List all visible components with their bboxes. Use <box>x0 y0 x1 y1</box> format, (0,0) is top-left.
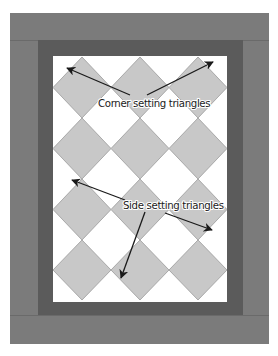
quilt-diagram: Corner setting triangles Side setting tr… <box>0 0 278 356</box>
side-triangles-label: Side setting triangles <box>123 200 224 211</box>
corner-triangles-label: Corner setting triangles <box>98 98 210 109</box>
quilt-center <box>53 56 227 302</box>
